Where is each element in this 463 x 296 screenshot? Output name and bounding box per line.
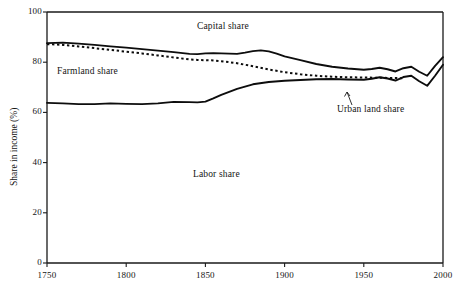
chart-figure: Share in income (%) Capital share Farmla… bbox=[0, 0, 463, 296]
labor-share-label: Labor share bbox=[193, 169, 240, 179]
plot-area bbox=[0, 0, 463, 296]
x-tick-label-1900: 1900 bbox=[270, 270, 300, 280]
y-tick-label-100: 100 bbox=[14, 6, 42, 16]
y-axis-title: Share in income (%) bbox=[9, 108, 19, 186]
y-tick-label-40: 40 bbox=[14, 157, 42, 167]
farmland-share-label: Farmland share bbox=[57, 66, 118, 76]
x-tick-label-2000: 2000 bbox=[428, 270, 458, 280]
x-tick-label-1850: 1850 bbox=[190, 270, 220, 280]
axes-group bbox=[47, 12, 443, 263]
y-tick-label-60: 60 bbox=[14, 106, 42, 116]
capital-share-label: Capital share bbox=[197, 21, 249, 31]
y-tick-label-0: 0 bbox=[14, 257, 42, 267]
x-tick-label-1800: 1800 bbox=[111, 270, 141, 280]
y-tick-label-20: 20 bbox=[14, 207, 42, 217]
x-tick-label-1950: 1950 bbox=[349, 270, 379, 280]
y-tick-label-80: 80 bbox=[14, 56, 42, 66]
urban-land-share-arrow bbox=[345, 92, 351, 97]
x-tick-label-1750: 1750 bbox=[32, 270, 62, 280]
urban-land-share-label: Urban land share bbox=[337, 104, 404, 114]
